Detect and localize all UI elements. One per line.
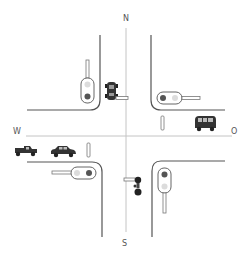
stop-bar-west xyxy=(87,143,90,157)
traffic-light-ne xyxy=(157,92,200,104)
bicycle-south-icon xyxy=(124,177,142,196)
compass-north-label: N xyxy=(123,15,129,23)
light-off-icon xyxy=(162,184,168,190)
light-red-icon xyxy=(160,95,166,101)
stop-bar-east xyxy=(161,116,164,130)
pickup-truck-west-icon xyxy=(15,146,37,156)
compass-east-label: O xyxy=(231,128,237,136)
light-off-icon xyxy=(172,95,178,101)
light-red-icon xyxy=(85,94,91,100)
intersection-diagram: N S W O xyxy=(0,0,251,260)
car-west-icon xyxy=(51,146,76,157)
light-red-icon xyxy=(162,172,168,178)
light-off-icon xyxy=(74,170,80,176)
traffic-light-nw xyxy=(81,60,94,103)
intersection-drawing xyxy=(0,0,251,260)
traffic-light-se xyxy=(158,168,171,213)
compass-south-label: S xyxy=(122,240,127,248)
light-off-icon xyxy=(85,82,91,88)
van-east-icon xyxy=(195,116,216,131)
light-red-icon xyxy=(86,170,92,176)
traffic-light-sw xyxy=(52,167,96,179)
compass-west-label: W xyxy=(13,128,21,136)
car-north-icon xyxy=(105,82,128,100)
